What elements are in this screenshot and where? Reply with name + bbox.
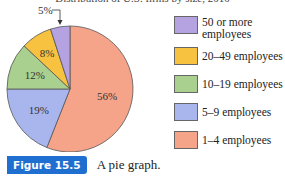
legend-swatch (174, 47, 198, 65)
slice-label: 12% (25, 69, 45, 81)
legend-item: 5–9 employees (174, 103, 271, 121)
legend-item: 20–49 employees (174, 47, 283, 65)
pie-chart: 56%19%12%8%5% (0, 0, 150, 152)
figure-caption-text: A pie graph. (97, 157, 161, 173)
legend-swatch (174, 103, 198, 121)
callout-arrowhead (58, 20, 63, 25)
legend-label: 10–19 employees (202, 78, 283, 90)
legend-label: 50 or moreemployees (202, 16, 252, 40)
slice-label: 19% (29, 104, 49, 116)
legend-label: 5–9 employees (202, 106, 271, 118)
legend-item: 1–4 employees (174, 131, 271, 149)
legend-label: 1–4 employees (202, 134, 271, 146)
legend-label: 20–49 employees (202, 50, 283, 62)
figure-number-tag: Figure 15.5 (7, 156, 87, 174)
legend-swatch (174, 16, 198, 34)
legend-swatch (174, 131, 198, 149)
legend-item: 50 or moreemployees (174, 16, 252, 40)
slice-label: 8% (40, 47, 55, 59)
slice-label: 5% (38, 4, 53, 16)
figure-caption: Figure 15.5 A pie graph. (7, 156, 161, 174)
legend-swatch (174, 75, 198, 93)
legend-item: 10–19 employees (174, 75, 283, 93)
slice-label: 56% (97, 90, 117, 102)
